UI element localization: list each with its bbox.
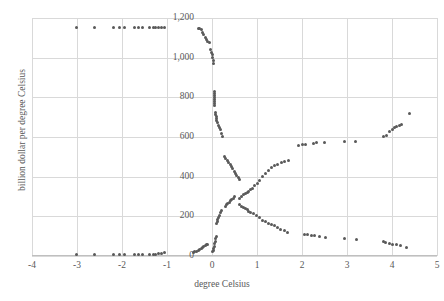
data-point <box>219 128 222 131</box>
gridline-h-4 <box>32 97 437 98</box>
data-point <box>286 231 289 234</box>
x-tick-label: -2 <box>118 261 126 271</box>
data-point <box>279 228 282 231</box>
data-point <box>400 123 403 126</box>
scatter-chart: 02004006008001,0001,200 -4-3-2-1012345 d… <box>0 0 444 301</box>
x-tick-label: -3 <box>73 261 81 271</box>
x-tick-label: 4 <box>390 261 395 271</box>
gridline-h-5 <box>32 58 437 59</box>
data-point <box>253 184 256 187</box>
data-point <box>408 112 411 115</box>
data-point <box>388 130 391 133</box>
data-point <box>264 172 267 175</box>
data-point <box>258 179 261 182</box>
data-point <box>313 234 316 237</box>
y-tick-label: 1,200 <box>173 13 194 23</box>
data-point <box>297 144 300 147</box>
data-point <box>75 253 78 256</box>
gridline-v-9 <box>437 18 438 256</box>
data-point <box>256 182 259 185</box>
gridline-v-1 <box>77 18 78 256</box>
data-point <box>276 163 279 166</box>
data-point <box>238 178 241 181</box>
data-point <box>385 134 388 137</box>
y-tick-label: 800 <box>180 93 194 103</box>
gridline-h-2 <box>32 177 437 178</box>
data-point <box>212 62 215 65</box>
data-point <box>206 243 209 246</box>
plot-area <box>32 18 437 256</box>
data-point <box>283 229 286 232</box>
y-axis-tick-labels: 02004006008001,0001,200 <box>160 18 194 256</box>
data-point <box>93 253 96 256</box>
gridline-v-0 <box>32 18 33 256</box>
data-point <box>118 26 121 29</box>
data-point <box>324 236 327 239</box>
data-point <box>395 243 398 246</box>
gridline-v-7 <box>347 18 348 256</box>
x-axis-tick-labels: -4-3-2-1012345 <box>32 261 437 275</box>
x-tick-label: 0 <box>210 261 215 271</box>
data-point <box>112 26 115 29</box>
data-point <box>315 141 318 144</box>
y-tick-label: 1,000 <box>173 53 194 63</box>
data-point <box>318 235 321 238</box>
data-point <box>141 253 144 256</box>
data-point <box>306 233 309 236</box>
gridline-v-6 <box>302 18 303 256</box>
data-point <box>399 244 402 247</box>
data-point <box>137 26 140 29</box>
data-point <box>261 175 264 178</box>
data-point <box>215 222 218 225</box>
data-point <box>287 159 290 162</box>
data-point <box>304 143 307 146</box>
x-axis-title: degree Celsius <box>0 279 444 289</box>
data-point <box>133 253 136 256</box>
data-point <box>354 140 357 143</box>
data-point <box>251 187 254 190</box>
data-point <box>133 26 136 29</box>
gridline-h-3 <box>32 137 437 138</box>
y-tick-label: 400 <box>180 172 194 182</box>
gridline-v-8 <box>392 18 393 256</box>
y-tick-label: 0 <box>189 251 194 261</box>
data-point <box>343 140 346 143</box>
data-point <box>93 26 96 29</box>
data-point <box>221 135 224 138</box>
data-point <box>141 26 144 29</box>
data-point <box>123 26 126 29</box>
data-point <box>391 243 394 246</box>
data-point <box>343 237 346 240</box>
data-point <box>323 141 326 144</box>
x-tick-label: 1 <box>255 261 260 271</box>
y-tick-label: 600 <box>180 132 194 142</box>
gridline-v-2 <box>122 18 123 256</box>
data-point <box>267 169 270 172</box>
data-point <box>283 160 286 163</box>
data-point <box>211 250 214 253</box>
gridline-h-0 <box>32 256 437 257</box>
y-axis-title: billion dollar per degree Celsius <box>17 60 27 200</box>
x-tick-label: -1 <box>163 261 171 271</box>
y-tick-label: 200 <box>180 212 194 222</box>
data-point <box>208 41 211 44</box>
x-tick-label: 3 <box>345 261 350 271</box>
x-tick-label: 5 <box>435 261 440 271</box>
gridline-h-1 <box>32 216 437 217</box>
x-tick-label: 2 <box>300 261 305 271</box>
data-point <box>213 104 216 107</box>
gridline-v-5 <box>257 18 258 256</box>
x-tick-label: -4 <box>28 261 36 271</box>
data-point <box>384 241 387 244</box>
data-point <box>224 205 227 208</box>
gridline-h-6 <box>32 18 437 19</box>
data-point <box>148 26 151 29</box>
data-point <box>405 246 408 249</box>
data-point <box>355 238 358 241</box>
